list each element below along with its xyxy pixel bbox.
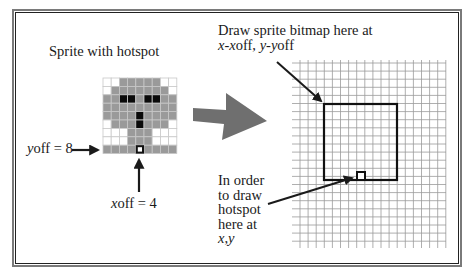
sprite-pixel xyxy=(119,145,127,153)
yoff-value: off = 8 xyxy=(33,140,72,156)
sprite-pixel xyxy=(128,145,136,153)
sprite-pixel xyxy=(136,112,144,120)
sprite-pixel xyxy=(119,78,127,86)
xoff-label: xoff = 4 xyxy=(111,196,157,211)
sprite-pixel xyxy=(103,112,111,120)
sprite-pixel xyxy=(103,95,111,103)
sprite-pixel xyxy=(136,95,144,103)
yoff-label: yoff = 8 xyxy=(27,141,73,156)
sprite-pixel xyxy=(160,103,168,111)
sprite-pixel xyxy=(119,128,127,136)
sprite-pixel xyxy=(169,120,177,128)
hotspot-label-line5: x,y xyxy=(218,231,264,246)
sprite-pixel xyxy=(169,145,177,153)
transform-arrow-icon xyxy=(193,93,267,140)
sprite-pixel xyxy=(144,120,152,128)
screen-pixel-grid xyxy=(292,60,446,248)
sprite-pixel xyxy=(128,137,136,145)
sprite-pixel xyxy=(169,137,177,145)
sprite-pixel xyxy=(128,86,136,94)
sprite-pixel xyxy=(152,95,160,103)
sprite-pixel xyxy=(144,103,152,111)
sprite-pixel xyxy=(111,128,119,136)
sprite-hotspot-marker xyxy=(137,146,143,152)
hotspot-label-line3: hotspot xyxy=(218,202,264,217)
sprite-pixel xyxy=(136,137,144,145)
sprite-pixel xyxy=(152,78,160,86)
sprite-pixel xyxy=(128,95,136,103)
sprite-pixel xyxy=(119,120,127,128)
sprite-pixel xyxy=(128,128,136,136)
sprite-pixel xyxy=(111,137,119,145)
sprite-pixel xyxy=(152,145,160,153)
sprite-pixel xyxy=(111,120,119,128)
sprite-pixel xyxy=(111,95,119,103)
sprite-pixel xyxy=(169,103,177,111)
hotspot-position-arrow-icon xyxy=(268,178,352,204)
sprite-pixel xyxy=(119,103,127,111)
var-y: y xyxy=(228,230,234,246)
sprite-pixel xyxy=(144,95,152,103)
destination-hotspot-marker xyxy=(357,172,365,180)
sprite-pixel xyxy=(119,137,127,145)
sprite-pixel xyxy=(144,145,152,153)
draw-label-line1: Draw sprite bitmap here at xyxy=(218,23,373,38)
sprite-pixel xyxy=(136,128,144,136)
sprite-pixel xyxy=(160,78,168,86)
sprite-pixel xyxy=(119,86,127,94)
sprite-pixel xyxy=(103,78,111,86)
sprite-pixel xyxy=(169,95,177,103)
sprite-pixel xyxy=(160,95,168,103)
sprite-pixel xyxy=(144,112,152,120)
sprite-pixel xyxy=(160,112,168,120)
sprite-pixel xyxy=(103,120,111,128)
sprite-pixel xyxy=(169,112,177,120)
draw-label-line2: x-xoff, y-yoff xyxy=(218,38,373,53)
sprite-pixel xyxy=(103,103,111,111)
sprite-pixel xyxy=(103,128,111,136)
hotspot-label-line1: In order xyxy=(218,173,264,188)
sprite-pixel xyxy=(128,103,136,111)
sprite-pixel xyxy=(169,86,177,94)
sprite-pixel xyxy=(119,112,127,120)
sprite-pixel xyxy=(136,78,144,86)
sprite-pixel xyxy=(111,145,119,153)
sprite-bitmap-grid xyxy=(103,78,177,154)
sprite-pixel xyxy=(160,120,168,128)
sprite-pixel xyxy=(152,120,160,128)
sprite-title-label: Sprite with hotspot xyxy=(49,44,159,59)
sprite-pixel xyxy=(169,128,177,136)
sprite-pixel xyxy=(160,128,168,136)
yoff-text: off xyxy=(277,37,294,53)
sprite-pixel xyxy=(160,86,168,94)
sprite-pixel xyxy=(136,120,144,128)
sprite-pixel xyxy=(152,103,160,111)
sprite-pixel xyxy=(160,145,168,153)
sprite-pixel xyxy=(111,103,119,111)
sprite-pixel xyxy=(111,86,119,94)
sprite-pixel xyxy=(111,112,119,120)
sprite-pixel xyxy=(169,78,177,86)
hotspot-label-line2: to draw xyxy=(218,188,264,203)
sprite-pixel xyxy=(119,95,127,103)
sprite-pixel xyxy=(128,120,136,128)
sprite-pixel xyxy=(144,78,152,86)
draw-position-label: Draw sprite bitmap here at x-xoff, y-yof… xyxy=(218,23,373,53)
sprite-pixel xyxy=(111,78,119,86)
sprite-pixel xyxy=(144,137,152,145)
sprite-pixel xyxy=(103,145,111,153)
sprite-pixel xyxy=(103,137,111,145)
sprite-pixel xyxy=(152,86,160,94)
hotspot-label-line4: here at xyxy=(218,217,264,232)
hotspot-position-label: In order to draw hotspot here at x,y xyxy=(218,173,264,246)
xoff-value: off = 4 xyxy=(117,195,156,211)
sprite-pixel xyxy=(128,112,136,120)
sprite-pixel xyxy=(152,128,160,136)
xoff-text: off, xyxy=(236,37,260,53)
sprite-pixel xyxy=(152,137,160,145)
sprite-pixel xyxy=(152,112,160,120)
sprite-pixel xyxy=(136,103,144,111)
sprite-pixel xyxy=(128,78,136,86)
sprite-pixel xyxy=(144,128,152,136)
sprite-pixel xyxy=(136,86,144,94)
